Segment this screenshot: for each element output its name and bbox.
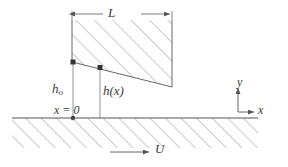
wedge-block <box>72 20 172 87</box>
ground-hatch-fill <box>12 118 258 148</box>
coordinate-axes <box>238 88 254 112</box>
h-of-x-top-marker <box>98 65 103 70</box>
x-axis-label: x <box>258 104 263 116</box>
y-axis-label: y <box>237 76 242 88</box>
wedge-hatch-fill <box>72 20 172 87</box>
h-zero-top-marker <box>71 60 76 65</box>
h-zero-label: ho <box>52 82 63 97</box>
length-label: L <box>108 6 115 19</box>
origin-label: x = 0 <box>54 104 79 116</box>
slider-bearing-diagram: L ho h(x) x = 0 y x U <box>0 0 288 167</box>
h-of-x-measure <box>98 65 103 118</box>
h-of-x-label: h(x) <box>103 84 124 97</box>
h-zero-subscript: o <box>59 87 64 97</box>
diagram-canvas <box>0 0 288 167</box>
length-dimension <box>72 11 172 20</box>
velocity-label: U <box>155 142 164 155</box>
ground-surface <box>12 118 258 148</box>
